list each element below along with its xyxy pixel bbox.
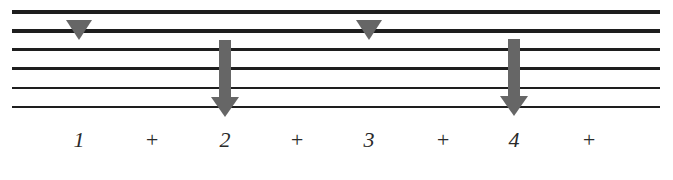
count-and-3: +: [423, 124, 463, 156]
string-1: [12, 10, 660, 14]
string-3: [12, 48, 660, 51]
count-3: 3: [349, 124, 389, 156]
beat-count-row: 1 + 2 + 3 + 4 +: [0, 124, 673, 156]
string-5: [12, 87, 660, 89]
count-2: 2: [205, 124, 245, 156]
count-and-2: +: [277, 124, 317, 156]
down-strum-arrow-icon: [500, 39, 528, 117]
count-4: 4: [494, 124, 534, 156]
string-6: [12, 106, 660, 108]
count-and-1: +: [132, 124, 172, 156]
strum-staff: [0, 0, 673, 120]
string-2: [12, 29, 660, 33]
down-strum-arrow-icon: [211, 40, 239, 118]
count-1: 1: [59, 124, 99, 156]
string-4: [12, 67, 660, 70]
count-and-4: +: [569, 124, 609, 156]
triangle-down-icon: [356, 20, 382, 41]
triangle-down-icon: [66, 20, 92, 41]
